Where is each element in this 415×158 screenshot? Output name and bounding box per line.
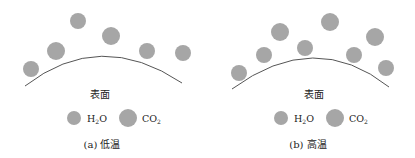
panel-b: 表面 H2O CO2 (b) 高温 bbox=[231, 13, 394, 150]
molecule-h2o bbox=[70, 13, 86, 29]
molecule-co2 bbox=[321, 13, 339, 31]
legend-h2o-label: H2O bbox=[294, 113, 314, 125]
legend-co2-label: CO2 bbox=[349, 113, 368, 125]
molecule-h2o bbox=[175, 45, 191, 61]
caption-b: (b) 高温 bbox=[289, 138, 326, 150]
legend-co2-swatch bbox=[119, 109, 137, 127]
molecule-co2 bbox=[366, 28, 384, 46]
molecule-h2o bbox=[346, 47, 362, 63]
panel-a: 表面 H2O CO2 (a) 低温 bbox=[23, 13, 191, 150]
legend-h2o-swatch bbox=[274, 111, 288, 125]
molecules bbox=[23, 13, 191, 77]
surface-label: 表面 bbox=[90, 88, 110, 100]
molecule-h2o bbox=[256, 47, 272, 63]
molecules bbox=[231, 13, 394, 81]
molecule-h2o bbox=[378, 60, 394, 76]
molecule-co2 bbox=[47, 42, 65, 60]
molecule-co2 bbox=[102, 27, 120, 45]
molecule-h2o bbox=[139, 43, 155, 59]
legend-co2-swatch bbox=[326, 109, 344, 127]
molecule-h2o bbox=[23, 61, 39, 77]
surface-label: 表面 bbox=[304, 88, 324, 100]
adsorption-diagram: 表面 H2O CO2 (a) 低温 表面 H2O CO2 (b) 高温 bbox=[0, 0, 415, 158]
legend-h2o-label: H2O bbox=[87, 113, 107, 125]
molecule-co2 bbox=[271, 23, 289, 41]
legend-co2-label: CO2 bbox=[142, 113, 161, 125]
molecule-h2o bbox=[231, 65, 247, 81]
surface-arc bbox=[232, 58, 389, 89]
legend-h2o-swatch bbox=[67, 111, 81, 125]
molecule-h2o bbox=[297, 40, 313, 56]
surface-arc bbox=[25, 56, 182, 86]
caption-a: (a) 低温 bbox=[84, 138, 121, 150]
